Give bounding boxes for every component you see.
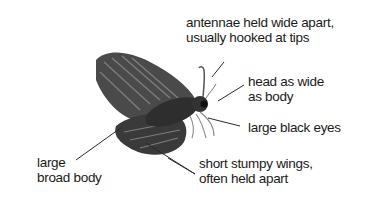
leader-head <box>218 85 244 101</box>
antenna <box>199 67 204 97</box>
label-wings: short stumpy wings, often held apart <box>199 156 313 186</box>
eye <box>201 101 208 108</box>
label-body: large broad body <box>37 155 102 185</box>
label-antennae: antennae held wide apart, usually hooked… <box>186 15 334 45</box>
label-eyes: large black eyes <box>248 120 341 135</box>
label-head: head as wide as body <box>248 74 324 104</box>
leader-eyes <box>208 118 240 126</box>
leader-antennae <box>212 62 224 77</box>
